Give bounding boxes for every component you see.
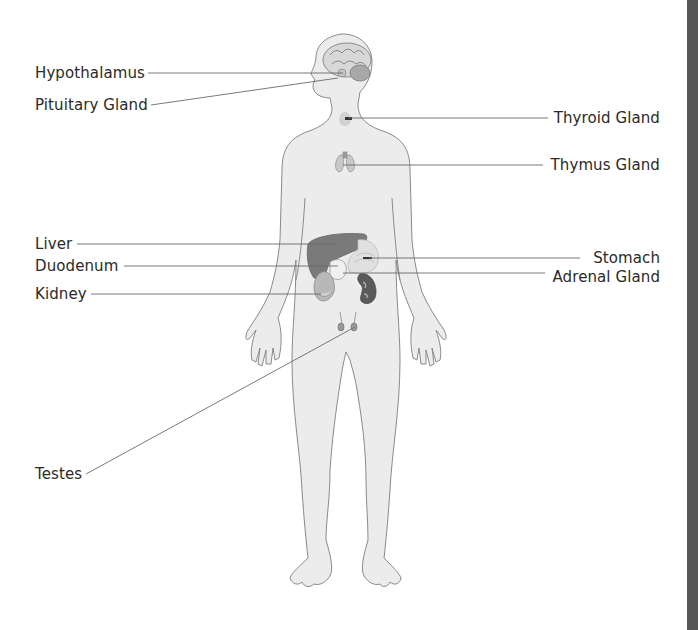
duodenum-icon	[330, 260, 346, 280]
label-adrenal-gland: Adrenal Gland	[552, 268, 660, 286]
label-duodenum: Duodenum	[35, 257, 118, 275]
label-thymus-gland: Thymus Gland	[551, 156, 660, 174]
label-kidney: Kidney	[35, 285, 87, 303]
label-pituitary-gland: Pituitary Gland	[35, 96, 148, 114]
body-illustration	[0, 0, 698, 630]
label-thyroid-gland: Thyroid Gland	[554, 109, 660, 127]
endocrine-diagram: Hypothalamus Pituitary Gland Liver Duode…	[0, 0, 698, 630]
scrollbar[interactable]	[687, 0, 698, 630]
label-hypothalamus: Hypothalamus	[35, 64, 145, 82]
label-testes: Testes	[35, 465, 82, 483]
label-stomach: Stomach	[593, 249, 660, 267]
leader-pituitary	[151, 78, 338, 105]
label-liver: Liver	[35, 235, 72, 253]
